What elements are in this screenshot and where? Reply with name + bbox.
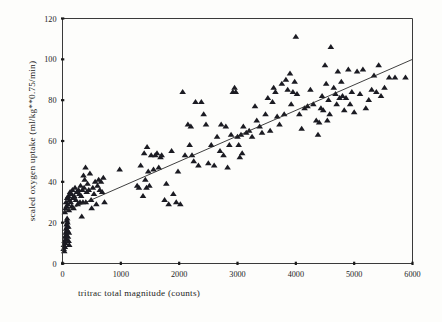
data-point-marker — [375, 62, 382, 67]
plot-canvas: 020406080100120 010002000300040005000600… — [0, 0, 442, 322]
data-point-marker — [146, 183, 153, 188]
data-point-marker — [293, 34, 300, 39]
data-point-marker — [326, 111, 333, 116]
y-axis-tick-labels: 020406080100120 — [44, 15, 56, 269]
data-point-marker — [351, 109, 358, 114]
data-point-marker — [284, 87, 291, 92]
data-point-marker — [345, 66, 352, 71]
data-point-marker — [190, 158, 197, 163]
data-point-marker — [267, 128, 274, 133]
axes — [63, 19, 413, 264]
data-point-marker — [368, 87, 375, 92]
y-tick-label: 60 — [48, 137, 56, 146]
data-point-marker — [214, 134, 221, 139]
x-tick-label: 2000 — [171, 270, 187, 279]
data-point-marker — [315, 132, 322, 137]
data-point-marker — [338, 79, 345, 84]
y-tick-label: 0 — [52, 260, 56, 269]
data-point-marker — [137, 162, 144, 167]
data-point-marker — [231, 85, 238, 90]
scatter-plot-figure: 020406080100120 010002000300040005000600… — [0, 0, 442, 322]
data-point-marker — [287, 71, 294, 76]
data-point-marker — [357, 91, 364, 96]
data-point-marker — [64, 215, 71, 220]
data-point-marker — [198, 99, 205, 104]
data-point-marker — [78, 213, 85, 218]
data-point-marker — [228, 132, 235, 137]
data-point-marker — [154, 150, 161, 155]
data-point-marker — [161, 197, 168, 202]
x-tick-label: 5000 — [346, 270, 362, 279]
data-point-marker — [144, 144, 151, 149]
data-point-marker — [402, 75, 409, 80]
data-point-marker — [381, 85, 388, 90]
data-point-marker — [239, 150, 246, 155]
data-point-marker — [179, 89, 186, 94]
data-point-marker — [87, 171, 94, 176]
y-tick-label: 80 — [48, 96, 56, 105]
x-tick-label: 1000 — [113, 270, 129, 279]
data-point-marker — [252, 103, 259, 108]
data-point-marker — [163, 181, 170, 186]
x-axis-title: tritrac total magnitude (counts) — [78, 288, 200, 298]
y-axis-title: scaled oxygen uptake (ml/kg**0.75/min) — [27, 61, 37, 222]
x-tick-label: 0 — [60, 270, 64, 279]
data-point-marker — [140, 193, 147, 198]
data-point-marker — [333, 101, 340, 106]
data-point-marker — [296, 111, 303, 116]
data-point-marker — [288, 101, 295, 106]
data-point-marker — [211, 162, 218, 167]
data-point-marker — [360, 66, 367, 71]
data-point-marker — [365, 97, 372, 102]
data-point-marker — [235, 142, 242, 147]
data-point-marker — [265, 95, 272, 100]
data-point-marker — [218, 122, 225, 127]
data-point-marker — [175, 169, 182, 174]
data-point-marker — [324, 117, 331, 122]
x-tick-label: 3000 — [229, 270, 245, 279]
data-point-marker — [354, 68, 361, 73]
data-point-marker — [249, 134, 256, 139]
data-point-marker — [392, 75, 399, 80]
data-point-marker — [155, 164, 162, 169]
data-point-marker — [226, 142, 233, 147]
data-point-marker — [116, 166, 123, 171]
data-point-marker — [192, 99, 199, 104]
data-point-marker — [168, 148, 175, 153]
data-point-marker — [298, 126, 305, 131]
data-point-marker — [276, 122, 283, 127]
data-point-marker — [240, 124, 247, 129]
data-point-marker — [323, 81, 330, 86]
x-axis-tick-labels: 0100020003000400050006000 — [60, 270, 420, 279]
data-point-marker — [347, 101, 354, 106]
data-point-marker — [291, 79, 298, 84]
data-point-marker — [182, 152, 189, 157]
data-point-marker — [283, 77, 290, 82]
data-point-marker — [322, 62, 329, 67]
data-point-marker — [363, 105, 370, 110]
y-tick-label: 40 — [48, 178, 56, 187]
data-point-marker — [203, 122, 210, 127]
data-point-marker — [341, 107, 348, 112]
y-tick-label: 20 — [48, 219, 56, 228]
data-point-marker — [205, 160, 212, 165]
data-point-marker — [270, 85, 277, 90]
data-point-marker — [259, 130, 266, 135]
data-point-marker — [335, 68, 342, 73]
data-point-marker — [253, 117, 260, 122]
data-point-marker — [217, 148, 224, 153]
data-point-marker — [101, 199, 108, 204]
data-point-marker — [325, 97, 332, 102]
x-tick-label: 6000 — [404, 270, 420, 279]
data-point-marker — [307, 87, 314, 92]
data-point-marker — [170, 191, 177, 196]
y-tick-label: 100 — [44, 55, 56, 64]
data-point-marker — [100, 175, 107, 180]
data-point-marker — [328, 44, 335, 49]
data-point-markers — [60, 34, 408, 253]
data-point-marker — [349, 89, 356, 94]
data-point-marker — [186, 142, 193, 147]
data-point-marker — [319, 93, 326, 98]
data-point-marker — [141, 150, 148, 155]
data-point-marker — [330, 85, 337, 90]
